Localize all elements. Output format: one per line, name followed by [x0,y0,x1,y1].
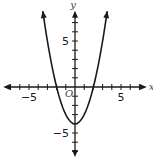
y-axis-label: y [69,0,76,10]
y-tick-label: 5 [62,35,69,48]
curve-arrow-right [103,11,109,18]
y-axis-arrow-down [72,150,78,157]
labels: x y O −555−5 [21,0,153,140]
curve-arrow-left [41,11,47,18]
parabola-graph: x y O −555−5 [0,0,153,159]
y-tick-label: −5 [53,127,69,140]
y-axis-arrow-up [72,11,78,18]
x-tick-label: −5 [21,91,37,104]
x-axis-label: x [149,81,153,92]
x-axis-arrow-left [3,84,10,90]
x-tick-label: 5 [118,91,125,104]
origin-label: O [65,88,73,99]
x-axis-arrow-right [140,84,147,90]
